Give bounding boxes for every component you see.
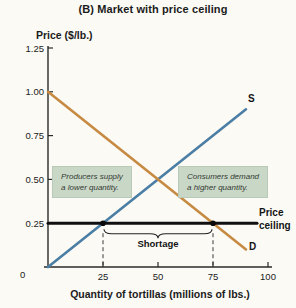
shortage-label: Shortage xyxy=(118,238,198,249)
tick-label-layer: 0.250.500.751.001.25255075100 xyxy=(0,0,296,308)
price-ceiling-label-line1: Price xyxy=(259,207,296,220)
y-tick-label: 1.00 xyxy=(12,86,44,97)
x-tick-label: 25 xyxy=(89,271,117,282)
consumers-annotation-line1: Consumers demand xyxy=(187,171,259,182)
y-tick-label: 1.25 xyxy=(12,43,44,54)
y-tick-label: 0.25 xyxy=(12,218,44,229)
y-tick-label: 0.75 xyxy=(12,130,44,141)
consumers-annotation: Consumers demand a higher quantity. xyxy=(178,166,268,198)
price-ceiling-label-line2: ceiling xyxy=(259,220,296,233)
x-tick-label: 75 xyxy=(199,271,227,282)
producers-annotation-line1: Producers supply xyxy=(61,171,123,182)
y-tick-label: 0.50 xyxy=(12,174,44,185)
producers-annotation: Producers supply a lower quantity. xyxy=(52,166,132,198)
market-price-ceiling-chart: (B) Market with price ceiling Price ($/l… xyxy=(0,0,296,308)
x-tick-label: 50 xyxy=(144,271,172,282)
origin-tick-label: 0 xyxy=(20,269,25,280)
x-tick-label: 100 xyxy=(254,271,282,282)
producers-annotation-line2: a lower quantity. xyxy=(61,182,123,193)
price-ceiling-label: Price ceiling xyxy=(259,207,296,232)
supply-curve-label: S xyxy=(248,93,255,104)
x-axis-title: Quantity of tortillas (millions of lbs.) xyxy=(24,288,296,300)
consumers-annotation-line2: a higher quantity. xyxy=(187,182,259,193)
demand-curve-label: D xyxy=(249,241,256,252)
